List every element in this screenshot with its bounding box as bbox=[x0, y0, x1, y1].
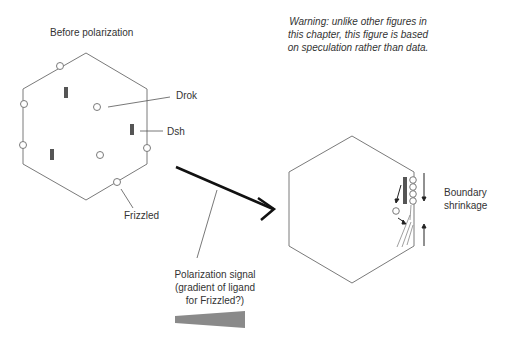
cell-hexagon-before bbox=[23, 53, 147, 200]
boundary-line-1: Boundary bbox=[444, 186, 487, 199]
warning-line-3: on speculation rather than data. bbox=[283, 41, 433, 54]
label-drok: Drok bbox=[176, 89, 197, 102]
label-polarization-signal: Polarization signal (gradient of ligand … bbox=[160, 268, 270, 307]
warning-line-2: this chapter, this figure is based bbox=[283, 28, 433, 41]
signal-line-2: (gradient of ligand bbox=[160, 281, 270, 294]
warning-line-1: Warning: unlike other figures in bbox=[283, 15, 433, 28]
signal-line-1: Polarization signal bbox=[160, 268, 270, 281]
gradient-wedge bbox=[175, 311, 245, 328]
signal-line-3: for Frizzled?) bbox=[160, 294, 270, 307]
warning-note: Warning: unlike other figures in this ch… bbox=[283, 15, 433, 54]
title-before-polarization: Before polarization bbox=[50, 26, 133, 39]
signal-leader bbox=[197, 190, 217, 258]
label-frizzled: Frizzled bbox=[124, 209, 159, 222]
label-boundary-shrinkage: Boundary shrinkage bbox=[444, 186, 487, 212]
transition-arrow bbox=[176, 167, 274, 220]
clustered-dsh bbox=[403, 177, 407, 204]
dsh-markers bbox=[50, 87, 134, 160]
shrinkage-arrows bbox=[422, 173, 426, 246]
drok-leader bbox=[108, 97, 170, 107]
boundary-line-2: shrinkage bbox=[444, 199, 487, 212]
label-dsh: Dsh bbox=[167, 125, 185, 138]
frizzled-leader bbox=[121, 189, 133, 208]
